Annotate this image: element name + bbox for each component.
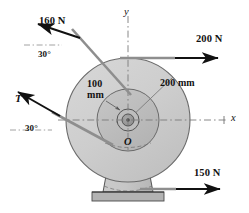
label-force-T: T <box>15 93 22 104</box>
label-dim-100mm-line2: mm <box>87 90 104 100</box>
label-origin-O: O <box>124 137 132 148</box>
label-dim-200mm: 200 mm <box>160 78 195 88</box>
label-angle-upper: 30° <box>38 50 51 59</box>
label-dim-100mm-line1: 100 <box>87 79 102 89</box>
figure-canvas: 160 N 30° 200 N 200 mm 100 mm T 30° y x … <box>0 0 249 213</box>
ground-base <box>92 192 164 201</box>
label-force-200n: 200 N <box>196 34 222 45</box>
label-force-150n: 150 N <box>194 168 220 179</box>
pulley-diagram-svg <box>0 0 249 213</box>
arrow-T <box>18 92 60 116</box>
label-angle-lower: 30° <box>25 124 38 133</box>
label-axis-x: x <box>231 113 236 124</box>
label-force-160n: 160 N <box>39 16 65 27</box>
label-axis-y: y <box>124 7 129 18</box>
ground-block <box>92 192 164 201</box>
